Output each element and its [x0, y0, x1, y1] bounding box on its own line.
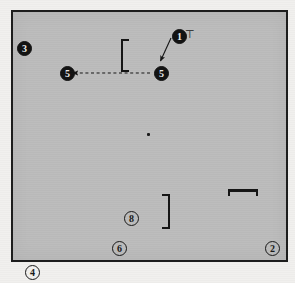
reference-numeral-8-label: 8	[129, 214, 134, 224]
figure-plate	[11, 10, 288, 262]
reference-numeral-2[interactable]: 2	[265, 241, 280, 256]
bracket-lower-right	[162, 194, 170, 229]
reference-numeral-5-left-label: 5	[65, 69, 70, 79]
reference-numeral-5-right[interactable]: 5	[154, 66, 169, 81]
reference-numeral-8[interactable]: 8	[124, 211, 139, 226]
reference-numeral-6[interactable]: 6	[112, 241, 127, 256]
figure-canvas: ⊤ 1 3 5 5 8 6 2 4	[0, 0, 295, 283]
center-fiducial-dot	[147, 133, 150, 136]
scale-bar	[228, 189, 258, 196]
reference-numeral-5-right-label: 5	[159, 69, 164, 79]
reference-numeral-1-label: 1	[177, 32, 182, 42]
reference-numeral-6-label: 6	[117, 244, 122, 254]
reference-numeral-4[interactable]: 4	[25, 265, 40, 280]
reference-numeral-3[interactable]: 3	[17, 41, 32, 56]
reference-numeral-5-left[interactable]: 5	[60, 66, 75, 81]
reference-numeral-2-label: 2	[270, 244, 275, 254]
bracket-upper-left	[121, 39, 129, 72]
reference-numeral-4-label: 4	[30, 268, 35, 278]
reference-numeral-3-label: 3	[22, 44, 27, 54]
reference-numeral-1[interactable]: 1	[172, 29, 187, 44]
